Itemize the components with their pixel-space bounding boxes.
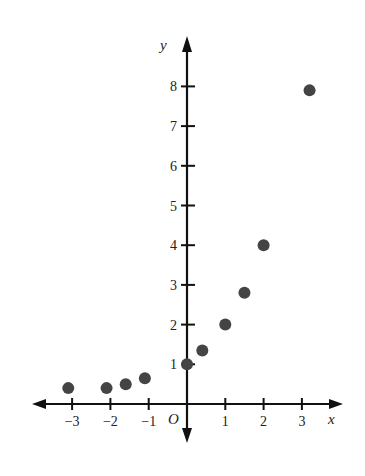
data-point	[258, 239, 270, 251]
x-tick-label: −3	[65, 414, 80, 429]
data-point	[62, 382, 74, 394]
y-tick-label: 1	[170, 357, 177, 372]
x-axis-label: x	[327, 411, 335, 427]
axes	[32, 36, 343, 443]
y-tick-label: 3	[170, 278, 177, 293]
y-tick-label: 5	[170, 199, 177, 214]
data-points	[62, 84, 315, 394]
x-tick-label: 1	[222, 414, 229, 429]
ticks: −3−2−112312345678	[65, 79, 306, 429]
x-tick-label: −1	[141, 414, 156, 429]
y-axis-up-arrow-icon	[182, 36, 192, 52]
x-axis-right-arrow-icon	[329, 399, 343, 409]
y-tick-label: 2	[170, 318, 177, 333]
x-tick-label: 3	[298, 414, 305, 429]
data-point	[139, 372, 151, 384]
data-point	[238, 287, 250, 299]
data-point	[196, 344, 208, 356]
data-point	[219, 319, 231, 331]
y-axis-down-arrow-icon	[182, 428, 192, 443]
data-point	[120, 378, 132, 390]
x-axis-left-arrow-icon	[32, 399, 46, 409]
data-point	[181, 358, 193, 370]
y-tick-label: 7	[170, 119, 177, 134]
data-point	[101, 382, 113, 394]
y-tick-label: 8	[170, 79, 177, 94]
origin-label: O	[168, 411, 179, 427]
x-tick-label: −2	[103, 414, 118, 429]
x-tick-label: 2	[260, 414, 267, 429]
y-tick-label: 6	[170, 159, 177, 174]
y-tick-label: 4	[170, 238, 177, 253]
scatter-chart: −3−2−112312345678 x y O	[0, 0, 365, 476]
y-axis-label: y	[158, 37, 167, 53]
data-point	[304, 84, 316, 96]
